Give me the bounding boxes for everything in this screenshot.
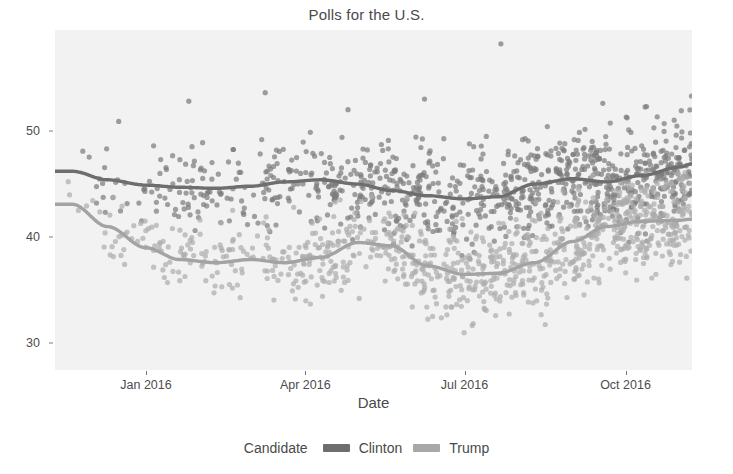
chart-title: Polls for the U.S. [0, 6, 733, 23]
y-axis-tick-mark-50 [49, 130, 53, 131]
legend: Candidate Clinton Trump [0, 440, 733, 456]
legend-label-trump: Trump [449, 440, 489, 456]
x-axis-tick-mark-oct [626, 371, 627, 375]
x-axis-title: Date [55, 394, 692, 411]
y-axis-tick-label-30: 30 [0, 336, 40, 350]
legend-item-clinton[interactable]: Clinton [323, 440, 403, 456]
y-axis-tick-mark-30 [49, 343, 53, 344]
y-axis-tick-label-50: 50 [0, 124, 40, 138]
x-axis-tick-label-jul: Jul 2016 [441, 378, 488, 392]
chart-root: Polls for the U.S. 50 40 30 Jan 2016 Apr… [0, 0, 733, 474]
plot-area [55, 30, 692, 370]
x-axis-tick-mark-apr [305, 371, 306, 375]
x-axis-tick-label-oct: Oct 2016 [600, 378, 651, 392]
x-axis-tick-mark-jul [465, 371, 466, 375]
x-axis-tick-mark-jan [146, 371, 147, 375]
legend-item-trump[interactable]: Trump [413, 440, 489, 456]
x-axis-tick-label-apr: Apr 2016 [280, 378, 331, 392]
x-axis-tick-label-jan: Jan 2016 [120, 378, 171, 392]
legend-swatch-clinton [323, 444, 350, 452]
plot-panel [55, 30, 692, 370]
legend-swatch-trump [413, 444, 440, 452]
legend-label-clinton: Clinton [359, 440, 403, 456]
y-axis-tick-label-40: 40 [0, 230, 40, 244]
y-axis-tick-mark-40 [49, 237, 53, 238]
legend-title: Candidate [244, 440, 308, 456]
